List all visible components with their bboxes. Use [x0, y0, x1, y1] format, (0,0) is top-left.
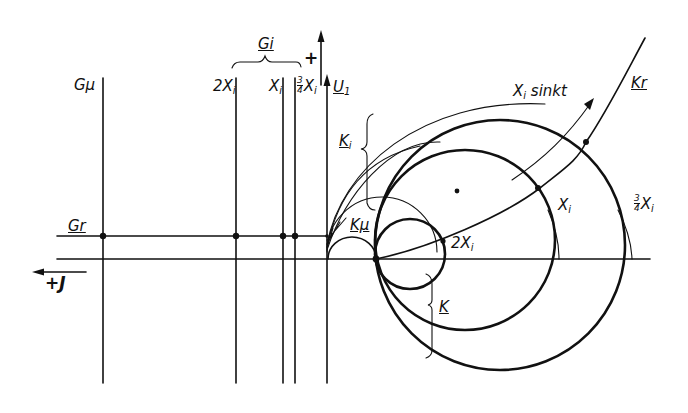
circle-k-2xi — [375, 219, 445, 289]
label-u1-sub: 1 — [344, 86, 350, 97]
label-34xi-line-sub: i — [314, 85, 317, 96]
label-2xi-line-sub: i — [233, 85, 236, 96]
label-g-r: Gr — [68, 219, 86, 234]
label-g-i-text: Gi — [258, 35, 274, 53]
k-r-locus — [376, 38, 645, 259]
label-2xi-line: 2Xi — [213, 79, 236, 96]
dot-2xi-intersection — [440, 238, 445, 243]
dot-34xi-intersection — [583, 139, 589, 145]
label-xi-sinkt-main: X — [513, 82, 523, 100]
plus-j-arrowhead-icon — [32, 269, 44, 276]
label-34xi-line: 34Xi — [297, 76, 317, 96]
label-g-mu: Gμ — [74, 78, 95, 93]
label-xi-circle-sub: i — [568, 204, 571, 215]
label-xi-sinkt-text: sinkt — [526, 82, 567, 100]
dot-xi-intersection — [535, 185, 541, 191]
label-34xi-circle-sub: i — [651, 203, 654, 214]
k-mu-semicircle — [328, 237, 376, 259]
k-i-arc-inner — [327, 142, 440, 250]
label-xi-line-main: X — [269, 77, 279, 95]
label-34xi-circle-den: 4 — [634, 204, 640, 213]
dot-2xi — [233, 233, 239, 239]
gi-brace — [232, 56, 301, 68]
label-2xi-line-main: 2X — [213, 77, 233, 95]
dot-34xi — [292, 233, 298, 239]
xi-sinkt-arrowhead-icon — [584, 98, 594, 110]
label-xi-sinkt: Xi sinkt — [513, 84, 567, 101]
label-xi-line: Xi — [269, 79, 282, 96]
label-k-r: Kr — [631, 76, 647, 91]
label-34xi-circle-frac: 34 — [634, 194, 640, 213]
label-xi-circle-main: X — [558, 196, 568, 214]
circle-diagram — [0, 0, 688, 413]
label-xi-line-sub: i — [279, 85, 282, 96]
label-k-i-main: K — [339, 132, 349, 150]
dot-xi — [280, 233, 286, 239]
label-34xi-circle-main: X — [641, 195, 651, 213]
label-2xi-circle-main: 2X — [451, 234, 471, 252]
label-u1-main: U — [333, 78, 344, 96]
label-g-i: Gi — [258, 37, 274, 52]
label-2xi-circle: 2Xi — [451, 236, 474, 253]
dot-u1-gr — [325, 234, 329, 238]
dot-origin-tangent — [373, 256, 380, 263]
label-k-i-sub: i — [349, 140, 352, 151]
plus-arrowhead-icon — [318, 30, 325, 42]
label-xi-circle: Xi — [558, 198, 571, 215]
label-34xi-line-main: X — [304, 77, 314, 95]
label-2xi-circle-sub: i — [471, 242, 474, 253]
label-34xi-circle: 34Xi — [634, 194, 654, 214]
label-k-i: Ki — [339, 134, 352, 151]
dot-g-mu — [100, 233, 106, 239]
label-k: K — [439, 300, 449, 315]
u1-arrowhead-icon — [324, 74, 331, 86]
label-plus-j: +J — [45, 275, 66, 292]
xi-sinkt-arrow — [512, 104, 590, 180]
label-u1: U1 — [333, 80, 350, 97]
label-34xi-line-frac: 34 — [297, 76, 303, 95]
label-plus: + — [304, 50, 318, 67]
label-k-mu: Kμ — [350, 218, 369, 233]
label-34xi-line-den: 4 — [297, 86, 303, 95]
center-dot — [455, 189, 460, 194]
